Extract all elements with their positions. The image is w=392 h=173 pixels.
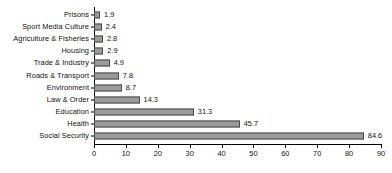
- bar: [94, 36, 103, 43]
- bar-chart: Prisons1.9Sport Media Culture2.4Agricult…: [0, 0, 392, 173]
- bar-value-label: 1.9: [104, 11, 114, 18]
- category-label: Housing: [61, 48, 89, 55]
- x-axis-tick-label: 30: [186, 150, 194, 157]
- bar: [94, 60, 110, 67]
- bar: [94, 132, 364, 139]
- bar-row: Prisons1.9: [94, 9, 381, 21]
- bar-value-label: 84.6: [368, 132, 382, 139]
- bar-value-label: 2.8: [107, 36, 117, 43]
- category-label: Sport Media Culture: [22, 23, 89, 30]
- x-axis-tick-label: 50: [249, 150, 257, 157]
- bar-row: Roads & Transport7.8: [94, 69, 381, 81]
- x-axis-tick-label: 10: [122, 150, 130, 157]
- x-axis-tick: [381, 145, 382, 148]
- x-axis-tick-label: 90: [377, 150, 385, 157]
- bar-row: Social Security84.6: [94, 130, 381, 142]
- x-axis-tick-label: 0: [92, 150, 96, 157]
- bar: [94, 12, 100, 19]
- x-axis-tick: [190, 145, 191, 148]
- category-label: Trade & Industry: [34, 60, 89, 67]
- x-axis-tick: [253, 145, 254, 148]
- bar: [94, 48, 103, 55]
- bar-value-label: 2.9: [107, 48, 117, 55]
- bar-row: Agriculture & Fisheries2.8: [94, 33, 381, 45]
- bar-value-label: 8.7: [126, 84, 136, 91]
- category-label: Health: [67, 120, 89, 127]
- bar-rows: Prisons1.9Sport Media Culture2.4Agricult…: [94, 9, 381, 142]
- category-label: Agriculture & Fisheries: [13, 36, 89, 43]
- x-axis-tick: [158, 145, 159, 148]
- bar: [94, 96, 140, 103]
- x-axis-tick-label: 20: [154, 150, 162, 157]
- bar: [94, 72, 119, 79]
- bar-row: Health45.7: [94, 118, 381, 130]
- bar-value-label: 14.3: [144, 96, 158, 103]
- x-axis-tick: [317, 145, 318, 148]
- bar-value-label: 4.9: [114, 60, 124, 67]
- x-axis-tick-label: 80: [345, 150, 353, 157]
- category-label: Prisons: [64, 11, 89, 18]
- x-axis-tick-label: 40: [217, 150, 225, 157]
- bar-value-label: 45.7: [244, 120, 258, 127]
- bar-value-label: 31.3: [198, 108, 212, 115]
- x-axis-tick-label: 70: [313, 150, 321, 157]
- bar: [94, 120, 240, 127]
- category-label: Roads & Transport: [26, 72, 89, 79]
- bar-value-label: 7.8: [123, 72, 133, 79]
- x-axis-tick: [94, 145, 95, 148]
- category-label: Social Security: [39, 132, 89, 139]
- category-label: Environment: [47, 84, 89, 91]
- category-label: Law & Order: [47, 96, 89, 103]
- bar: [94, 24, 102, 31]
- bar: [94, 84, 122, 91]
- x-axis-tick: [349, 145, 350, 148]
- bar-row: Sport Media Culture2.4: [94, 21, 381, 33]
- bar-row: Law & Order14.3: [94, 94, 381, 106]
- x-axis-tick-label: 60: [281, 150, 289, 157]
- x-axis-tick: [285, 145, 286, 148]
- bar: [94, 108, 194, 115]
- bar-row: Trade & Industry4.9: [94, 57, 381, 69]
- category-label: Education: [56, 108, 89, 115]
- bar-row: Housing2.9: [94, 45, 381, 57]
- bar-row: Environment8.7: [94, 82, 381, 94]
- x-axis-ticks: 0102030405060708090: [94, 145, 381, 171]
- x-axis-tick: [222, 145, 223, 148]
- bar-row: Education31.3: [94, 106, 381, 118]
- plot-area: Prisons1.9Sport Media Culture2.4Agricult…: [94, 9, 381, 143]
- x-axis-tick: [126, 145, 127, 148]
- bar-value-label: 2.4: [106, 23, 116, 30]
